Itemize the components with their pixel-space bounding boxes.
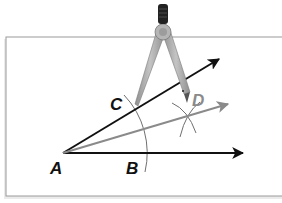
label-A: A: [50, 160, 62, 177]
construction-canvas: [0, 0, 282, 203]
angle-bisector-figure: A B C D: [0, 0, 282, 203]
paper-frame: [6, 37, 282, 196]
label-C: C: [110, 96, 122, 113]
label-D: D: [192, 92, 204, 109]
label-B: B: [126, 160, 138, 177]
